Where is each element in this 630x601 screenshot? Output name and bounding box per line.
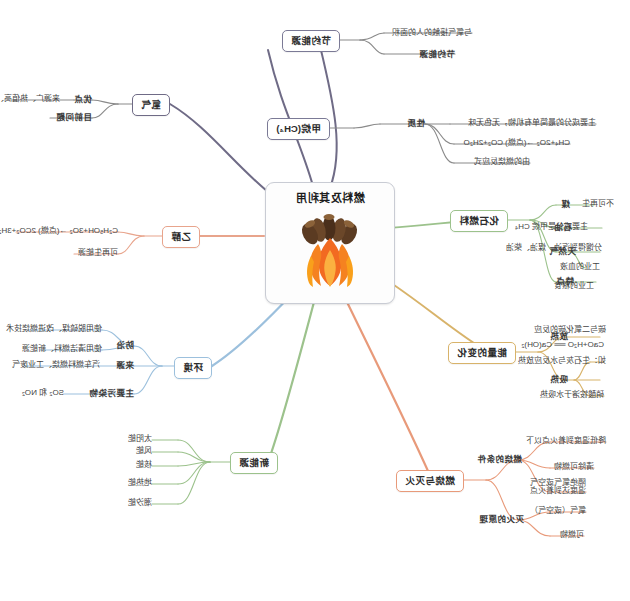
branch-new-energy[interactable]: 新能源 [230,452,278,474]
node-hydrogen-advantage[interactable]: 优点 [74,94,92,105]
node-pollution-source[interactable]: 来源 [116,360,134,371]
node-new-energy-5[interactable]: 潮汐能 [128,498,152,508]
node-methane-detail-1[interactable]: 主要成分的最简单有机物，无色无味 [468,118,596,128]
node-fossil-feature-detail[interactable]: 不可再生 [582,199,614,209]
node-ethanol-equation[interactable]: C₂H₅OH+3O₂ →(点燃) 2CO₂+3H₂O [0,226,118,236]
node-combustion-cond-2[interactable]: 氧气（或空气） [530,506,586,516]
node-hydrogen-problem[interactable]: 目前问题 [56,112,92,123]
central-topic-label: 燃料及其利用 [296,192,365,206]
node-new-energy-4[interactable]: 地热能 [128,478,152,488]
central-topic[interactable]: 燃料及其利用 [265,182,395,304]
node-energy-endo-detail-2[interactable]: 碳与二氧化碳的反应 [534,325,606,335]
campfire-icon [291,210,369,288]
node-methane-detail-2[interactable]: 由的燃烧反应式 [474,157,530,167]
node-save-fuel-sub[interactable]: 节约能源 [419,49,455,60]
node-energy-endo-detail-1[interactable]: 硝酸铵溶于水吸热 [540,390,604,400]
node-energy-exo-detail[interactable]: 如：生石灰与水反应放热 [518,356,606,366]
node-new-energy-1[interactable]: 太阳能 [128,434,152,444]
node-methane-equation[interactable]: CH₄+2O₂ →(点燃) CO₂+2H₂O [464,138,570,148]
node-pollution-source-detail[interactable]: 汽车燃料燃烧、工业废气 [12,360,100,370]
node-hydrogen-advantage-detail[interactable]: 来源广、热值高、无污染 [0,94,60,104]
branch-methane[interactable]: 甲烷(CH₄) [267,118,330,140]
node-extinguish-principle[interactable]: 灭火的原理 [479,514,524,525]
node-save-fuel-detail[interactable]: 与氧气接触的人的面积 [392,28,472,38]
node-extinguish-2[interactable]: 隔绝氧气或空气 [530,478,586,488]
node-fossil-coal[interactable]: 煤 [561,199,570,210]
node-pollution-main-detail[interactable]: SO₂ 和 NO₂ [22,388,64,398]
branch-ethanol[interactable]: 乙醇 [162,226,200,248]
branch-fossil-fuel[interactable]: 化石燃料 [450,210,508,232]
node-extinguish-3[interactable]: 降低温度到着火点以下 [526,436,606,446]
node-fossil-oil-detail-1[interactable]: 工业的血液 [560,262,600,272]
node-methane-property[interactable]: 性质 [407,118,425,129]
branch-save-fuel[interactable]: 节约能源 [282,30,340,52]
node-ethanol-renewable[interactable]: 可再生能源 [78,248,118,258]
node-combustion-cond-1[interactable]: 可燃物 [560,530,584,540]
node-fossil-feature[interactable]: 特点 [556,276,574,287]
node-pollution-control-1[interactable]: 使用脱硫煤、改进燃烧技术 [6,324,102,334]
branch-combustion[interactable]: 燃烧与灭火 [396,470,464,492]
branch-pollution[interactable]: 环境 [174,357,212,379]
branch-energy-change[interactable]: 能量的变化 [448,342,516,364]
mind-map-canvas: 燃料及其利用 [0,0,630,601]
node-extinguish-1[interactable]: 清除可燃物 [554,462,594,472]
node-pollution-control[interactable]: 防治 [116,340,134,351]
node-fossil-gas[interactable]: 天然气 [549,246,576,257]
node-combustion-conditions[interactable]: 燃烧的条件 [477,454,522,465]
node-fossil-gas-detail[interactable]: 主要成分是甲烷 CH₄ [515,222,588,232]
node-energy-endo[interactable]: 吸热 [550,374,568,385]
node-energy-exo-equation[interactable]: CaO+H₂O ══ Ca(OH)₂ [521,340,604,350]
node-pollution-control-2[interactable]: 使用清洁燃料、新能源 [22,344,102,354]
node-new-energy-2[interactable]: 风能 [136,446,152,456]
branch-hydrogen[interactable]: 氢气 [132,94,170,116]
node-pollution-main[interactable]: 主要污染物 [89,388,134,399]
node-new-energy-3[interactable]: 核能 [136,460,152,470]
